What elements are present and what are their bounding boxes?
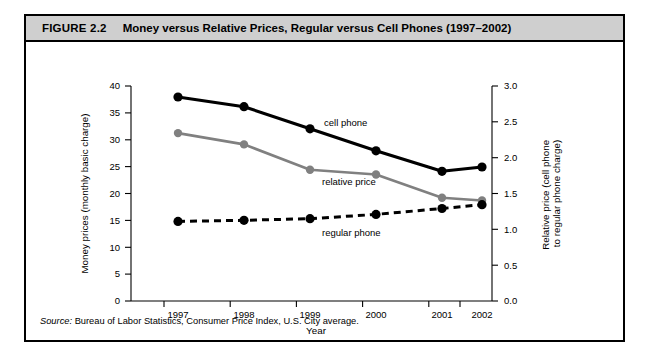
figure-title-bar: FIGURE 2.2 Money versus Relative Prices,… [26, 16, 623, 42]
y-tick-label-25: 25 [109, 161, 120, 172]
x-tick-label-2002: 2002 [471, 309, 492, 320]
y-tick-label-10: 10 [109, 242, 120, 253]
series-label-cell-phone: cell phone [324, 117, 367, 128]
line-chart: 0 5 10 15 20 25 30 35 40 Money prices (m… [26, 42, 623, 340]
figure-frame: FIGURE 2.2 Money versus Relative Prices,… [24, 14, 625, 342]
series-regular-phone-line [178, 205, 482, 222]
data-point [437, 167, 446, 176]
y-tick-label-5: 5 [115, 268, 120, 279]
data-point [239, 102, 248, 111]
series-cell-phone [173, 92, 486, 176]
series-relative-price [174, 129, 486, 205]
series-relative-price-line [178, 133, 482, 200]
x-tick-label-2000: 2000 [365, 309, 386, 320]
data-point [371, 210, 380, 219]
series-cell-phone-line [178, 97, 482, 171]
series-regular-phone [173, 200, 486, 226]
y-tick-label-35: 35 [109, 107, 120, 118]
y-axis-right-title: Relative price (cell phone to regular ph… [540, 137, 562, 250]
data-point [305, 124, 314, 133]
data-point [438, 194, 446, 202]
data-point [174, 129, 182, 137]
x-axis-title: Year [306, 325, 327, 336]
y-tick-label-20: 20 [109, 188, 120, 199]
y-tick-label-0: 0 [115, 295, 120, 306]
data-point [371, 146, 380, 155]
source-label: Source: [40, 316, 72, 326]
source-note: Source: Bureau of Labor Statistics, Cons… [40, 316, 359, 326]
y-tick-label-30: 30 [109, 134, 120, 145]
y2-tick-label-3_0: 3.0 [504, 80, 517, 91]
y2-tick-label-1_5: 1.5 [504, 188, 517, 199]
y-axis-right-ticks [492, 86, 498, 301]
data-point [305, 214, 314, 223]
figure-number: FIGURE 2.2 [42, 22, 107, 34]
x-axis-ticks [164, 301, 460, 307]
y-tick-label-15: 15 [109, 215, 120, 226]
data-point [306, 166, 314, 174]
y-axis-right: 0.0 0.5 1.0 1.5 2.0 2.5 3.0 Relative pri… [492, 80, 562, 306]
data-point [477, 162, 486, 171]
data-point [437, 204, 446, 213]
y2-tick-label-1_0: 1.0 [504, 224, 517, 235]
y2-tick-label-2_0: 2.0 [504, 152, 517, 163]
data-point [239, 216, 248, 225]
series-label-regular-phone: regular phone [322, 227, 381, 238]
chart-plot-region: 0 5 10 15 20 25 30 35 40 Money prices (m… [26, 42, 623, 340]
data-point [173, 92, 182, 101]
y2-tick-label-0: 0.0 [504, 295, 517, 306]
data-point [240, 140, 248, 148]
y2-tick-label-0_5: 0.5 [504, 260, 517, 271]
source-text: Bureau of Labor Statistics, Consumer Pri… [72, 316, 359, 326]
figure-title: Money versus Relative Prices, Regular ve… [123, 22, 512, 34]
data-point [477, 200, 486, 209]
y-axis-left: 0 5 10 15 20 25 30 35 40 Money prices (m… [79, 80, 131, 306]
y-tick-label-40: 40 [109, 80, 120, 91]
data-point [173, 217, 182, 226]
series-label-relative-price: relative price [322, 176, 376, 187]
x-tick-label-2001: 2001 [431, 309, 452, 320]
y2-tick-label-2_5: 2.5 [504, 116, 517, 127]
y-axis-left-title: Money prices (monthly basic charge) [79, 113, 90, 273]
y-axis-left-ticks [125, 86, 131, 301]
